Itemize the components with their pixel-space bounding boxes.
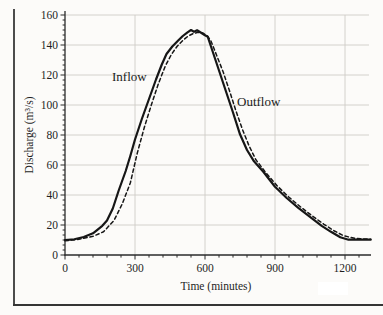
y-axis-ticks: 020406080100120140160 — [41, 9, 65, 261]
y-tick-label: 20 — [47, 219, 59, 231]
scanned-page: 02040608010012014016003006009001200 Time… — [0, 0, 383, 315]
x-tick-label: 300 — [126, 262, 144, 274]
y-tick-label: 40 — [47, 189, 59, 201]
y-axis-title: Discharge (m³/s) — [23, 54, 39, 216]
x-axis-title: Time (minutes) — [133, 280, 299, 292]
y-tick-label: 0 — [52, 249, 58, 261]
y-tick-label: 100 — [41, 99, 59, 111]
y-tick-label: 80 — [47, 129, 59, 141]
gridlines — [65, 15, 369, 255]
y-tick-label: 120 — [41, 69, 59, 81]
y-tick-label: 140 — [41, 39, 59, 51]
outflow-series-label: Outflow — [237, 94, 280, 110]
axes — [64, 11, 371, 256]
y-tick-label: 60 — [47, 159, 59, 171]
x-tick-label: 600 — [196, 262, 214, 274]
x-axis-ticks: 03006009001200 — [62, 255, 359, 274]
hydrograph-chart: 02040608010012014016003006009001200 — [0, 0, 383, 315]
x-tick-label: 900 — [266, 262, 284, 274]
y-tick-label: 160 — [41, 9, 59, 21]
x-tick-label: 0 — [62, 262, 68, 274]
inflow-series-label: Inflow — [112, 69, 147, 85]
x-tick-label: 1200 — [334, 262, 357, 274]
